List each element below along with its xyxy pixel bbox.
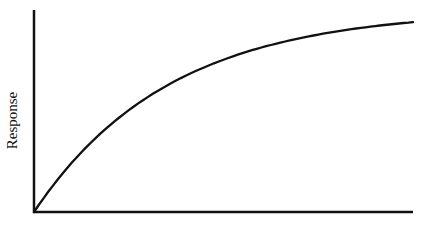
y-axis-label-container: Response [2,85,24,155]
y-axis-label: Response [5,91,22,149]
response-chart [0,0,421,225]
response-curve [34,22,413,212]
